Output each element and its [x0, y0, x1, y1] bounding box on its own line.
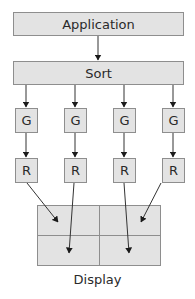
- connector-arrows: [0, 0, 195, 299]
